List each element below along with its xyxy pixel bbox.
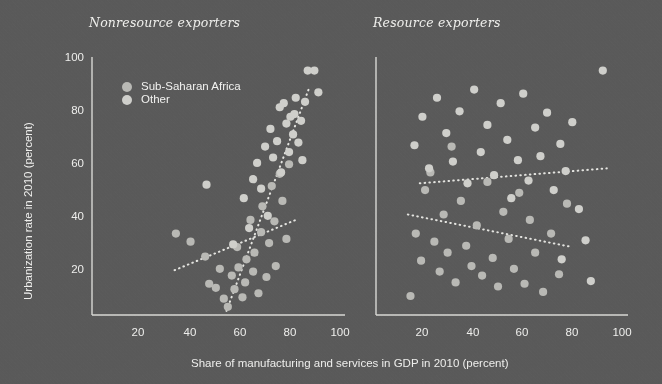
scatter-point (268, 182, 276, 190)
scatter-point (489, 254, 497, 262)
scatter-point (278, 197, 286, 205)
scatter-point (531, 124, 539, 132)
scatter-point (285, 148, 293, 156)
scatter-point (238, 293, 246, 301)
scatter-point (242, 255, 250, 263)
scatter-point (266, 125, 274, 133)
scatter-point (483, 121, 491, 129)
scatter-point (245, 224, 253, 232)
scatter-point (507, 194, 515, 202)
scatter-point (280, 99, 288, 107)
scatter-point (470, 85, 478, 93)
scatter-point (277, 168, 285, 176)
scatter-point (292, 94, 300, 102)
scatter-point (539, 288, 547, 296)
scatter-point (410, 141, 418, 149)
scatter-point (273, 137, 281, 145)
scatter-point (433, 94, 441, 102)
scatter-point (547, 229, 555, 237)
scatter-point (224, 303, 232, 311)
scatter-point (462, 242, 470, 250)
scatter-point (490, 171, 498, 179)
scatter-point (442, 129, 450, 137)
scatter-point (526, 216, 534, 224)
scatter-point (240, 194, 248, 202)
scatter-point (310, 66, 318, 74)
scatter-point (261, 143, 269, 151)
scatter-point (483, 178, 491, 186)
scatter-point (220, 295, 228, 303)
scatter-point (568, 118, 576, 126)
scatter-point (257, 185, 265, 193)
scatter-point (412, 229, 420, 237)
scatter-point (563, 200, 571, 208)
scatter-point (477, 148, 485, 156)
scatter-point (421, 186, 429, 194)
scatter-point (531, 248, 539, 256)
scatter-point (425, 164, 433, 172)
scatter-point (230, 285, 238, 293)
scatter-point (272, 262, 280, 270)
axis-lines-right (376, 57, 628, 315)
scatter-point (269, 153, 277, 161)
scatter-point (599, 66, 607, 74)
scatter-point (262, 273, 270, 281)
scatter-points-right (406, 66, 607, 300)
scatter-point (514, 156, 522, 164)
scatter-point (555, 270, 563, 278)
scatter-point (536, 152, 544, 160)
scatter-point (216, 265, 224, 273)
scatter-point (282, 235, 290, 243)
scatter-point (457, 197, 465, 205)
scatter-point (250, 248, 258, 256)
scatter-point (494, 282, 502, 290)
scatter-point (581, 236, 589, 244)
scatter-point (451, 278, 459, 286)
scatter-point (499, 208, 507, 216)
scatter-point (436, 267, 444, 275)
scatter-point (202, 181, 210, 189)
scatter-point (575, 205, 583, 213)
scatter-point (294, 138, 302, 146)
scatter-point (257, 228, 265, 236)
scatter-point (467, 262, 475, 270)
trend-line (420, 168, 607, 183)
scatter-point (201, 253, 209, 261)
scatter-point (550, 186, 558, 194)
scatter-point (234, 263, 242, 271)
scatter-point (172, 229, 180, 237)
scatter-point (524, 176, 532, 184)
scatter-point (241, 278, 249, 286)
scatter-point (543, 109, 551, 117)
scatter-point (301, 98, 309, 106)
scatter-point (448, 143, 456, 151)
scatter-point (449, 157, 457, 165)
scatter-point (473, 221, 481, 229)
scatter-point (418, 113, 426, 121)
scatter-point (463, 179, 471, 187)
scatter-point (519, 90, 527, 98)
scatter-point (497, 99, 505, 107)
scatter-points-left (172, 66, 323, 310)
scatter-point (297, 117, 305, 125)
scatter-point (229, 240, 237, 248)
scatter-point (444, 248, 452, 256)
scatter-point (478, 272, 486, 280)
scatter-point (440, 210, 448, 218)
scatter-point (228, 272, 236, 280)
scatter-point (558, 255, 566, 263)
plot-canvas (0, 0, 662, 384)
scatter-point (505, 235, 513, 243)
scatter-point (556, 140, 564, 148)
scatter-point (254, 289, 262, 297)
scatter-point (314, 88, 322, 96)
scatter-point (258, 202, 266, 210)
scatter-point (515, 189, 523, 197)
scatter-point (285, 160, 293, 168)
scatter-point (253, 159, 261, 167)
scatter-point (289, 130, 297, 138)
scatter-point (406, 292, 414, 300)
scatter-point (587, 277, 595, 285)
figure-root: Nonresource exporters Resource exporters… (0, 0, 662, 384)
scatter-point (455, 107, 463, 115)
